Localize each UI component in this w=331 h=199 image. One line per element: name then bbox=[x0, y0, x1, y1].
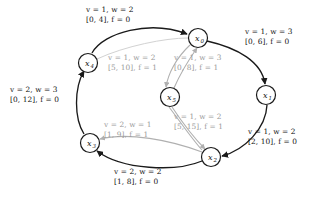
node-x5-subscript: 5 bbox=[173, 97, 177, 103]
edge-label-left-line2: [0, 12], f = 0 bbox=[10, 95, 59, 105]
edge-label-inner-upper-left-line1: v = 1, w = 2 bbox=[108, 53, 157, 63]
edge-label-top-line2: [0, 4], f = 0 bbox=[86, 15, 134, 25]
node-x4-label: x bbox=[85, 59, 90, 68]
node-x5-label: x bbox=[167, 93, 172, 102]
node-x2-subscript: 2 bbox=[213, 157, 218, 163]
edge-label-bottom-right: v = 1, w = 2 [2, 10], f = 0 bbox=[248, 127, 297, 147]
node-x3[interactable]: x 3 bbox=[81, 134, 100, 153]
node-x0[interactable]: x 0 bbox=[189, 29, 208, 48]
node-x4[interactable]: x 4 bbox=[79, 54, 98, 73]
node-x5[interactable]: x 5 bbox=[161, 88, 180, 107]
edge-label-bottom: v = 2, w = 2 [1, 8], f = 0 bbox=[114, 167, 162, 187]
edge-label-inner-upper-right-line2: [0, 8], f = 1 bbox=[174, 63, 222, 73]
node-group: x 0 x 1 x 2 x 3 x 4 bbox=[79, 29, 276, 167]
graph-figure: x 0 x 1 x 2 x 3 x 4 bbox=[0, 0, 331, 199]
outer-edge-x3-x4 bbox=[77, 71, 85, 134]
edge-label-bottom-line2: [1, 8], f = 0 bbox=[114, 177, 162, 187]
node-x2[interactable]: x 2 bbox=[202, 148, 221, 167]
edge-label-inner-lower-right: v = 1, w = 2 [5, 15], f = 1 bbox=[174, 112, 223, 132]
edge-label-inner-lower-right-line1: v = 1, w = 2 bbox=[174, 112, 223, 122]
edge-label-inner-lower-right-line2: [5, 15], f = 1 bbox=[174, 122, 223, 132]
node-x1-label: x bbox=[263, 91, 268, 100]
outer-edge-x4-x0 bbox=[92, 28, 187, 53]
edge-label-left-line1: v = 2, w = 3 bbox=[10, 85, 59, 95]
edge-label-top-line1: v = 1, w = 2 bbox=[86, 5, 134, 15]
edge-label-inner-lower-left: v = 2, w = 1 [1, 9], f = 1 bbox=[104, 120, 152, 140]
edge-label-inner-upper-left: v = 1, w = 2 [5, 10], f = 1 bbox=[108, 53, 157, 73]
edge-label-bottom-right-line1: v = 1, w = 2 bbox=[248, 127, 297, 137]
node-x0-label: x bbox=[195, 34, 200, 43]
edge-label-bottom-line1: v = 2, w = 2 bbox=[114, 167, 162, 177]
edge-label-inner-upper-left-line2: [5, 10], f = 1 bbox=[108, 63, 157, 73]
edge-label-inner-upper-right: v = 1, w = 3 [0, 8], f = 1 bbox=[174, 53, 222, 73]
edge-label-inner-lower-left-line1: v = 2, w = 1 bbox=[104, 120, 152, 130]
edge-label-left: v = 2, w = 3 [0, 12], f = 0 bbox=[10, 85, 59, 105]
node-x0-subscript: 0 bbox=[201, 38, 205, 44]
node-x4-subscript: 4 bbox=[90, 63, 95, 69]
edge-label-top: v = 1, w = 2 [0, 4], f = 0 bbox=[86, 5, 134, 25]
edge-label-top-right-line1: v = 1, w = 3 bbox=[245, 27, 293, 37]
node-x2-label: x bbox=[208, 153, 213, 162]
edge-label-inner-upper-right-line1: v = 1, w = 3 bbox=[174, 53, 222, 63]
edge-label-top-right: v = 1, w = 3 [0, 6], f = 0 bbox=[245, 27, 293, 47]
node-x1-subscript: 1 bbox=[269, 95, 273, 101]
node-x1[interactable]: x 1 bbox=[257, 86, 276, 105]
edge-label-top-right-line2: [0, 6], f = 0 bbox=[245, 37, 293, 47]
edge-label-bottom-right-line2: [2, 10], f = 0 bbox=[248, 137, 297, 147]
edge-label-inner-lower-left-line2: [1, 9], f = 1 bbox=[104, 130, 152, 140]
node-x3-label: x bbox=[87, 139, 92, 148]
node-x3-subscript: 3 bbox=[93, 143, 97, 149]
outer-edge-x2-x3 bbox=[97, 151, 202, 168]
